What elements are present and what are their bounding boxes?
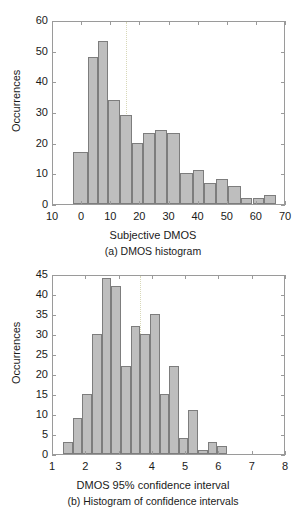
- plot-area-confidence-interval-histogram: [52, 275, 285, 455]
- x-axis-tick: [110, 201, 111, 205]
- x-axis-tick: [185, 451, 186, 455]
- y-axis-tick: [52, 174, 56, 175]
- y-axis-tick: [52, 113, 56, 114]
- histogram-bar: [121, 366, 131, 454]
- histogram-bar: [155, 130, 167, 204]
- x-axis-tick: [85, 275, 86, 279]
- y-tick-label: 45: [36, 269, 48, 280]
- plot-area-dmos-histogram: [52, 21, 285, 205]
- y-axis-tick: [281, 113, 285, 114]
- x-tick-label: 0: [78, 211, 84, 222]
- x-axis-tick: [52, 201, 53, 205]
- x-axis-tick: [85, 451, 86, 455]
- x-tick-label: 5: [182, 461, 188, 472]
- histogram-bar: [102, 278, 112, 454]
- y-axis-tick: [52, 415, 56, 416]
- y-axis-tick: [52, 295, 56, 296]
- x-tick-label: 6: [215, 461, 221, 472]
- x-tick-label: 60: [250, 211, 262, 222]
- y-axis-tick: [52, 315, 56, 316]
- y-tick-label: 0: [42, 449, 48, 460]
- x-axis-title-dmos-histogram: Subjective DMOS: [0, 229, 306, 241]
- y-tick-label: 10: [36, 409, 48, 420]
- y-tick-label: 30: [36, 329, 48, 340]
- x-tick-label: 70: [279, 211, 291, 222]
- y-tick-label: 20: [36, 138, 48, 149]
- figure-dmos-histograms: 0102030405060 10010203040506070 Occurren…: [0, 0, 306, 522]
- x-axis-tick: [198, 201, 199, 205]
- histogram-bar: [92, 334, 102, 454]
- histogram-bar: [82, 394, 92, 454]
- x-tick-label: 3: [116, 461, 122, 472]
- x-axis-tick: [227, 201, 228, 205]
- histogram-bar: [73, 152, 88, 204]
- y-tick-label: 0: [42, 199, 48, 210]
- y-tick-label: 35: [36, 309, 48, 320]
- x-tick-label: 2: [82, 461, 88, 472]
- y-tick-label: 50: [36, 46, 48, 57]
- histogram-bar: [193, 170, 205, 204]
- x-axis-tick: [139, 21, 140, 25]
- y-axis-tick: [281, 455, 285, 456]
- x-axis-tick: [52, 275, 53, 279]
- y-axis-tick: [52, 395, 56, 396]
- x-axis-tick: [52, 21, 53, 25]
- x-axis-tick: [218, 451, 219, 455]
- y-tick-label: 30: [36, 107, 48, 118]
- y-axis-tick: [281, 52, 285, 53]
- y-axis-tick: [281, 295, 285, 296]
- y-axis-tick: [281, 82, 285, 83]
- caption-panel-b: (b) Histogram of confidence intervals: [0, 495, 306, 507]
- x-axis-tick: [81, 201, 82, 205]
- x-axis-tick: [256, 201, 257, 205]
- x-axis-tick: [252, 451, 253, 455]
- histogram-bar: [208, 442, 218, 454]
- y-axis-tick: [52, 355, 56, 356]
- histogram-bar: [169, 366, 179, 454]
- panel-confidence-interval-histogram: 051015202530354045 12345678 Occurrences …: [0, 255, 306, 522]
- histogram-bar: [88, 57, 98, 204]
- histogram-bar: [131, 326, 141, 454]
- x-tick-label: 50: [221, 211, 233, 222]
- y-tick-label: 15: [36, 389, 48, 400]
- y-axis-tick: [52, 82, 56, 83]
- x-tick-label: 20: [133, 211, 145, 222]
- histogram-bar: [132, 143, 144, 204]
- y-axis-tick: [281, 335, 285, 336]
- x-tick-label: 8: [282, 461, 288, 472]
- x-tick-label: 30: [162, 211, 174, 222]
- y-axis-tick: [281, 174, 285, 175]
- y-tick-label: 40: [36, 289, 48, 300]
- x-axis-tick: [218, 275, 219, 279]
- histogram-bar: [73, 418, 83, 454]
- histogram-bar: [180, 173, 193, 204]
- x-axis-tick: [252, 275, 253, 279]
- y-axis-tick: [281, 375, 285, 376]
- y-axis-tick: [281, 395, 285, 396]
- y-tick-label: 5: [42, 429, 48, 440]
- x-axis-tick: [81, 21, 82, 25]
- y-axis-tick: [281, 315, 285, 316]
- x-axis-tick: [152, 275, 153, 279]
- histogram-bar: [108, 100, 120, 204]
- histogram-bar: [228, 186, 241, 204]
- histogram-bar: [98, 41, 108, 204]
- histogram-bar: [188, 410, 198, 454]
- y-axis-tick: [281, 415, 285, 416]
- histogram-bar: [167, 133, 180, 204]
- y-axis-tick: [281, 144, 285, 145]
- histogram-bar: [111, 286, 121, 454]
- x-axis-tick: [285, 451, 286, 455]
- x-tick-label: 7: [249, 461, 255, 472]
- y-axis-tick: [52, 375, 56, 376]
- x-tick-label: 4: [149, 461, 155, 472]
- histogram-bar: [204, 183, 216, 204]
- x-tick-label: 10: [104, 211, 116, 222]
- y-axis-tick: [52, 144, 56, 145]
- x-tick-label: 10: [46, 211, 58, 222]
- x-axis-tick: [119, 451, 120, 455]
- histogram-bar: [63, 442, 73, 454]
- histogram-bar: [143, 133, 155, 204]
- histogram-bar: [264, 195, 276, 204]
- x-axis-tick: [119, 275, 120, 279]
